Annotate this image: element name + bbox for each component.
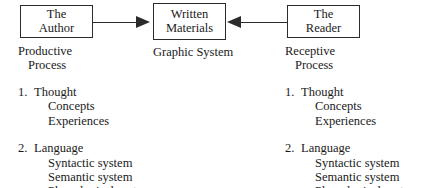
diagram-canvas: The Author Written Materials The Reader … xyxy=(0,0,445,188)
list-item: Semantic system xyxy=(285,170,445,184)
process-heading-productive-line-1: Productive xyxy=(18,44,198,58)
group-productive-language-number: 2. xyxy=(18,141,34,155)
list-item: Concepts xyxy=(18,99,198,113)
group-receptive-language: 2.Language Syntactic system Semantic sys… xyxy=(285,141,445,188)
list-item: Experiences xyxy=(18,114,198,128)
group-receptive-language-number: 2. xyxy=(285,141,301,155)
node-box-author-line-1: The xyxy=(47,8,66,22)
arrow-right-icon xyxy=(136,16,150,28)
node-box-written-line-1: Written xyxy=(171,8,209,22)
group-productive-thought-label: Thought xyxy=(34,85,76,99)
group-receptive-thought-number: 1. xyxy=(285,85,301,99)
process-heading-productive-line-2: Process xyxy=(18,58,198,72)
list-item: Phonological system xyxy=(285,184,445,188)
arrow-reader-to-written-line xyxy=(239,22,287,23)
arrow-left-icon xyxy=(227,16,241,28)
process-heading-receptive-line-1: Receptive xyxy=(285,44,445,58)
node-box-reader-line-1: The xyxy=(314,8,333,22)
group-receptive-thought-title: 1.Thought xyxy=(285,85,445,99)
node-box-written-materials: Written Materials xyxy=(153,3,226,40)
node-box-written-line-2: Materials xyxy=(166,22,213,36)
group-productive-thought-number: 1. xyxy=(18,85,34,99)
node-box-author-line-2: Author xyxy=(39,22,74,36)
group-receptive-thought-label: Thought xyxy=(301,85,343,99)
node-box-reader-line-2: Reader xyxy=(306,22,341,36)
group-productive-language-label: Language xyxy=(34,141,83,155)
group-receptive-language-title: 2.Language xyxy=(285,141,445,155)
list-item: Concepts xyxy=(285,99,445,113)
list-item: Phonological system xyxy=(18,184,198,188)
group-receptive-language-label: Language xyxy=(301,141,350,155)
text-column-receptive: Receptive Process 1.Thought Concepts Exp… xyxy=(285,44,445,188)
process-heading-productive: Productive Process xyxy=(18,44,198,72)
group-productive-language-title: 2.Language xyxy=(18,141,198,155)
node-box-author: The Author xyxy=(20,5,93,38)
group-productive-thought-title: 1.Thought xyxy=(18,85,198,99)
arrow-author-to-written-line xyxy=(93,22,140,23)
node-box-reader: The Reader xyxy=(287,5,360,38)
list-item: Syntactic system xyxy=(18,156,198,170)
group-productive-thought: 1.Thought Concepts Experiences xyxy=(18,85,198,128)
list-item: Experiences xyxy=(285,114,445,128)
group-receptive-thought: 1.Thought Concepts Experiences xyxy=(285,85,445,128)
list-item: Syntactic system xyxy=(285,156,445,170)
process-heading-receptive-line-2: Process xyxy=(285,58,445,72)
text-column-productive: Productive Process 1.Thought Concepts Ex… xyxy=(18,44,198,188)
list-item: Semantic system xyxy=(18,170,198,184)
group-productive-language: 2.Language Syntactic system Semantic sys… xyxy=(18,141,198,188)
process-heading-receptive: Receptive Process xyxy=(285,44,445,72)
